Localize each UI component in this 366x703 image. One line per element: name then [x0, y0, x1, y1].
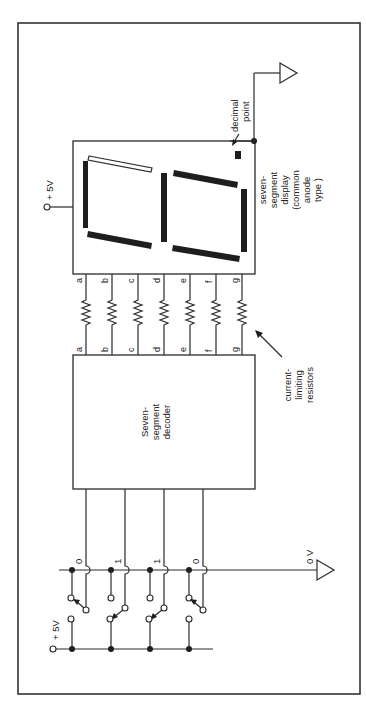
- input-switches: 0 V + 5V 0: [50, 489, 334, 652]
- pin-label-display-a: a: [74, 278, 84, 283]
- ground-triangle-icon: [317, 560, 334, 580]
- seven-segment-display: + 5V decimal point seven- segment displa…: [44, 63, 323, 274]
- resistor-a: [82, 274, 90, 355]
- segment-vertical-right: [241, 189, 247, 252]
- switch-2-value: 1: [112, 559, 123, 564]
- svg-text:segment: segment: [268, 171, 279, 208]
- svg-text:(common: (common: [290, 170, 301, 210]
- pin-label-decoder-a: a: [74, 347, 84, 352]
- decoder-label-3: decoder: [161, 405, 172, 439]
- pin-label-display-f: f: [204, 280, 214, 283]
- input-line-1: [86, 489, 90, 607]
- svg-text:seven-: seven-: [257, 176, 268, 205]
- segment-center: [161, 173, 167, 242]
- pin-label-display-b: b: [100, 278, 110, 283]
- display-supply-terminal: [44, 204, 50, 210]
- svg-text:limiting: limiting: [293, 370, 304, 400]
- input-line-2: [125, 489, 129, 605]
- svg-text:type ): type ): [312, 178, 323, 202]
- decoder-label-2: segment: [150, 403, 161, 440]
- seven-segment-decoder: Seven- segment decoder: [73, 355, 255, 489]
- ground-label: 0 V: [304, 549, 315, 564]
- svg-text:current-: current-: [282, 369, 293, 402]
- pin-label-display-g: g: [230, 278, 240, 283]
- pin-label-display-e: e: [178, 278, 188, 283]
- pin-label-decoder-f: f: [204, 349, 214, 352]
- segment-vertical-left: [83, 161, 88, 228]
- pin-label-display-c: c: [126, 278, 136, 283]
- resistor-label: current- limiting resistors: [282, 367, 315, 403]
- resistor-f: [212, 274, 220, 355]
- pin-label-decoder-d: d: [152, 347, 162, 352]
- decimal-point-label-1: decimal: [229, 99, 240, 132]
- svg-text:resistors: resistors: [304, 367, 315, 403]
- pin-label-decoder-b: b: [100, 347, 110, 352]
- decimal-point-segment: [235, 151, 241, 159]
- svg-text:anode: anode: [301, 177, 312, 203]
- switch-4-value: 0: [190, 559, 201, 564]
- resistor-g: [238, 274, 246, 355]
- resistor-c: [134, 274, 142, 355]
- input-line-3: [164, 489, 168, 605]
- supply-label: + 5V: [50, 620, 61, 640]
- display-supply-label: + 5V: [44, 180, 55, 200]
- resistor-e: [186, 274, 194, 355]
- display-label: seven- segment display (common anode typ…: [257, 170, 323, 210]
- pin-label-decoder-g: g: [230, 347, 240, 352]
- decimal-point-label-2: point: [240, 101, 251, 122]
- pin-label-decoder-c: c: [126, 347, 136, 352]
- circuit-diagram: + 5V decimal point seven- segment displa…: [0, 0, 366, 703]
- switch-3-value: 1: [151, 559, 162, 564]
- resistor-b: [108, 274, 116, 355]
- pin-label-decoder-e: e: [178, 347, 188, 352]
- decoder-label-1: Seven-: [139, 407, 150, 437]
- switch-1-value: 0: [73, 559, 84, 564]
- svg-text:display: display: [279, 175, 290, 205]
- pin-label-display-d: d: [152, 278, 162, 283]
- resistor-pointer-arrow: [258, 333, 282, 357]
- supply-terminal: [50, 646, 56, 652]
- ground-triangle-icon: [280, 63, 297, 83]
- input-line-4: [203, 489, 207, 607]
- resistor-d: [160, 274, 168, 355]
